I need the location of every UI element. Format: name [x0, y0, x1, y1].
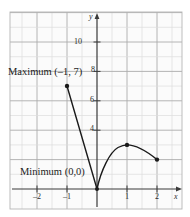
y-tick-label-4: 4 [90, 124, 94, 133]
x-tick-label-1: 1 [125, 192, 129, 201]
graph-figure: 10 8 6 4 –2 –1 1 2 x y Maximum (–1, 7) M… [0, 0, 190, 217]
y-tick-label-6: 6 [90, 95, 94, 104]
point-local-max [125, 143, 129, 147]
x-tick-label-2: 2 [155, 192, 159, 201]
minimum-annotation: Minimum (0,0) [20, 166, 85, 177]
maximum-annotation: Maximum (–1, 7) [8, 66, 82, 77]
x-tick-label-minus2: –2 [33, 192, 41, 201]
point-endpoint [155, 157, 159, 161]
plotted-curve [0, 0, 190, 217]
point-minimum [95, 187, 99, 191]
x-tick-label-minus1: –1 [63, 192, 71, 201]
curve-right-branch [97, 145, 157, 189]
y-tick-label-10: 10 [74, 37, 82, 46]
y-axis-label: y [89, 12, 93, 21]
point-maximum [65, 84, 69, 88]
y-tick-label-8: 8 [91, 65, 95, 74]
x-axis-label: x [174, 192, 178, 201]
